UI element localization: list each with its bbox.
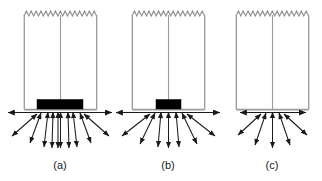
panel-b-label: (b) <box>161 159 174 171</box>
panel-c-label: (c) <box>266 159 279 171</box>
diagram-canvas: (a) (b) <box>0 0 322 181</box>
figure-background <box>0 0 322 181</box>
panel-b-contact-block <box>156 100 181 110</box>
panel-a-label: (a) <box>53 159 66 171</box>
panel-a-contact-block <box>37 100 83 110</box>
figure-container: (a) (b) <box>0 0 322 181</box>
